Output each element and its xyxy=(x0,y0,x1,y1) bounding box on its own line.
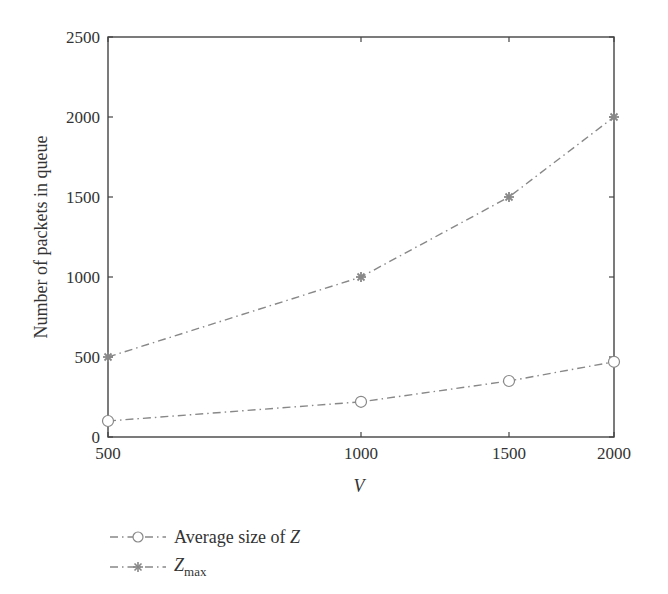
y-axis-label: Number of packets in queue xyxy=(31,136,51,339)
y-tick-label: 1000 xyxy=(66,268,100,287)
legend: Average size of Z Zmax xyxy=(108,522,300,582)
y-tick-label: 2000 xyxy=(66,108,100,127)
legend-label: Average size of Z xyxy=(174,527,300,548)
x-tick-label: 1000 xyxy=(344,444,378,463)
y-tick-label: 2500 xyxy=(66,28,100,47)
circle-marker-icon xyxy=(609,356,620,367)
x-tick-label: 2000 xyxy=(597,444,631,463)
legend-item-average-z: Average size of Z xyxy=(108,522,300,552)
circle-marker-icon xyxy=(356,396,367,407)
y-tick-label: 500 xyxy=(75,348,101,367)
series-average-z xyxy=(103,356,620,426)
circle-marker-icon xyxy=(103,416,114,427)
plot-frame xyxy=(108,37,614,437)
line-chart: 05001000150020002500500100015002000VNumb… xyxy=(0,0,668,594)
star-marker-icon xyxy=(108,557,168,577)
star-marker-icon xyxy=(504,192,514,202)
star-marker-icon xyxy=(609,112,619,122)
circle-marker-icon xyxy=(108,527,168,547)
x-axis-label: V xyxy=(354,476,367,496)
x-tick-label: 500 xyxy=(95,444,121,463)
legend-label: Zmax xyxy=(174,555,206,580)
star-marker-icon xyxy=(103,352,113,362)
star-marker-icon xyxy=(356,272,366,282)
series-zmax xyxy=(103,112,619,362)
circle-marker-icon xyxy=(503,376,514,387)
legend-item-zmax: Zmax xyxy=(108,552,300,582)
y-tick-label: 1500 xyxy=(66,188,100,207)
x-tick-label: 1500 xyxy=(492,444,526,463)
